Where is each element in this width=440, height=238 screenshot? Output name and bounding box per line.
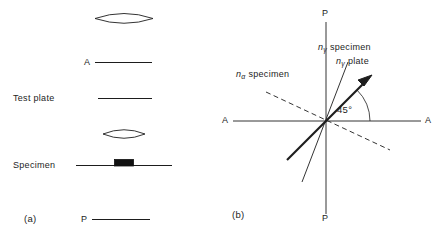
n-gamma-plate-text: plate bbox=[348, 56, 369, 66]
n-alpha-specimen-label: nα specimen bbox=[236, 70, 289, 80]
n-gamma-plate-subscript: γ bbox=[341, 60, 345, 67]
angle-arc-45 bbox=[357, 90, 370, 121]
panel-a-group bbox=[76, 14, 172, 220]
test-plate-label: Test plate bbox=[13, 94, 55, 103]
n-alpha-specimen-subscript: α bbox=[241, 73, 245, 80]
n-gamma-plate-line bbox=[287, 81, 366, 160]
panel-a-tag: (a) bbox=[24, 214, 37, 224]
top-lens bbox=[95, 14, 153, 24]
n-gamma-plate-arrowhead bbox=[358, 75, 372, 86]
n-alpha-specimen-text: specimen bbox=[248, 69, 289, 79]
specimen-label: Specimen bbox=[13, 161, 55, 170]
n-gamma-specimen-text: specimen bbox=[330, 42, 371, 52]
axis-label-p-bottom: P bbox=[322, 214, 328, 223]
figure-container: A Test plate Specimen P (a) P P A A nγ s… bbox=[0, 0, 440, 238]
polarizer-label: P bbox=[81, 215, 87, 224]
axis-label-a-right: A bbox=[425, 116, 431, 125]
figure-svg bbox=[0, 0, 440, 238]
specimen-block bbox=[115, 160, 134, 167]
axis-label-a-left: A bbox=[222, 116, 228, 125]
analyzer-label: A bbox=[84, 58, 90, 67]
n-gamma-specimen-subscript: γ bbox=[323, 46, 327, 53]
axis-label-p-top: P bbox=[322, 9, 328, 18]
lower-lens bbox=[103, 130, 145, 139]
n-gamma-specimen-label: nγ specimen bbox=[318, 43, 371, 53]
n-gamma-plate-label: nγ plate bbox=[336, 57, 369, 67]
angle-label-45: 45° bbox=[337, 105, 352, 115]
panel-b-tag: (b) bbox=[232, 210, 245, 220]
